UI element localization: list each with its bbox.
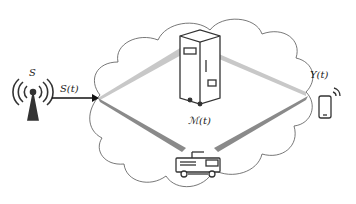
diagram-canvas: S S(t) ℳ(t) Y(t) [0, 0, 356, 204]
source-label: S [29, 67, 36, 78]
output-label: Y(t) [310, 69, 329, 80]
input-signal-label: S(t) [60, 83, 79, 94]
radio-tower-icon [13, 79, 53, 120]
smartphone-icon [319, 88, 340, 118]
server-cabinet-icon [180, 30, 220, 106]
channel-label: ℳ(t) [188, 115, 211, 126]
